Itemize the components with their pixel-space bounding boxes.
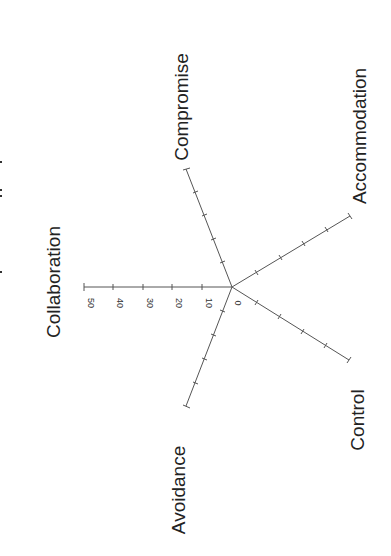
tick-label-50: 50 — [86, 298, 96, 308]
radar-chart: 50 40 30 20 10 0 — [0, 0, 391, 556]
axis-label-accommodation: Accommodation — [349, 68, 370, 204]
tick-label-40: 40 — [115, 298, 125, 308]
axis-label-control: Control — [347, 389, 368, 450]
axis-compromise — [183, 168, 232, 287]
tick-label-30: 30 — [145, 298, 155, 308]
axis-label-collaboration: Collaboration — [43, 226, 64, 338]
cropped-title-fragments — [0, 161, 2, 273]
tick-label-20: 20 — [174, 298, 184, 308]
axis-accommodation — [232, 213, 352, 287]
axis-collaboration — [84, 283, 232, 291]
axis-label-avoidance: Avoidance — [168, 446, 189, 534]
tick-label-0: 0 — [233, 300, 243, 305]
radial-tick-labels: 50 40 30 20 10 0 — [86, 298, 243, 308]
axis-label-compromise: Compromise — [171, 53, 192, 161]
axis-control — [232, 287, 351, 363]
tick-label-10: 10 — [204, 298, 214, 308]
